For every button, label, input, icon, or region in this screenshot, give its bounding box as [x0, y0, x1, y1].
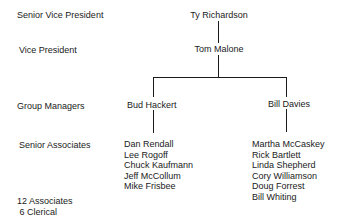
connector-bar-manager-right	[286, 77, 287, 97]
connector-manager-team-right	[286, 109, 287, 132]
team-member: Rick Bartlett	[252, 150, 325, 161]
connector-horizontal-bar	[153, 77, 287, 78]
level-label-senior-vp: Senior Vice President	[17, 10, 103, 20]
level-label-vp: Vice President	[19, 45, 77, 55]
connector-bar-manager-left	[153, 77, 154, 97]
node-manager-bud-hackert: Bud Hackert	[127, 100, 177, 110]
associates-count: 12 Associates	[17, 196, 73, 207]
team-member: Mike Frisbee	[124, 181, 193, 192]
level-label-senior-associates: Senior Associates	[19, 140, 91, 150]
level-label-group-managers: Group Managers	[17, 101, 85, 111]
team-member: Jeff McCollum	[124, 171, 193, 182]
connector-vp-bar	[218, 55, 219, 77]
team-member: Cory Williamson	[252, 171, 325, 182]
footer-counts: 12 Associates 6 Clerical	[17, 196, 73, 217]
node-vp: Tom Malone	[194, 44, 243, 54]
team-member: Chuck Kaufmann	[124, 160, 193, 171]
team-member: Linda Shepherd	[252, 160, 325, 171]
clerical-count: 6 Clerical	[17, 207, 73, 218]
team-member: Lee Rogoff	[124, 150, 193, 161]
team-member: Dan Rendall	[124, 139, 193, 150]
team-member: Martha McCaskey	[252, 139, 325, 150]
team-member: Bill Whiting	[252, 192, 325, 203]
node-manager-bill-davies: Bill Davies	[268, 99, 310, 109]
team-member: Doug Forrest	[252, 181, 325, 192]
node-senior-vp: Ty Richardson	[190, 10, 248, 20]
connector-svp-vp	[218, 21, 219, 43]
team-list-bill-davies: Martha McCaskey Rick Bartlett Linda Shep…	[252, 139, 325, 203]
connector-manager-team-left	[153, 110, 154, 133]
team-list-bud-hackert: Dan Rendall Lee Rogoff Chuck Kaufmann Je…	[124, 139, 193, 192]
